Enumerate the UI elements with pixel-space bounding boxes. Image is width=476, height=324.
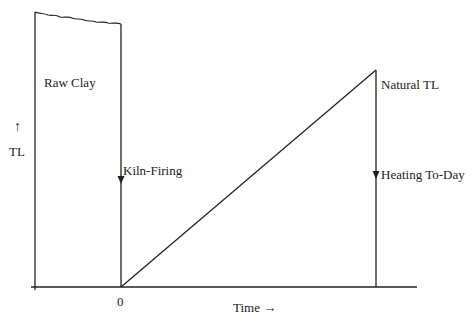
heating-today-label: Heating To-Day xyxy=(381,168,465,181)
raw-clay-wavy-top xyxy=(35,12,121,24)
heating-today-arrow-icon xyxy=(373,171,380,179)
raw-clay-label: Raw Clay xyxy=(44,76,96,89)
x-axis-label: Time → xyxy=(233,301,276,314)
y-axis-arrow-icon: ↑ xyxy=(14,120,21,134)
natural-tl-accumulation-line xyxy=(121,70,376,287)
y-axis-label: TL xyxy=(9,145,25,158)
diagram-lines xyxy=(0,0,476,324)
origin-label: 0 xyxy=(117,295,124,308)
natural-tl-label: Natural TL xyxy=(381,78,439,91)
tl-dating-diagram: Raw Clay ↑ TL Kiln-Firing Natural TL Hea… xyxy=(0,0,476,324)
kiln-firing-label: Kiln-Firing xyxy=(123,164,182,177)
